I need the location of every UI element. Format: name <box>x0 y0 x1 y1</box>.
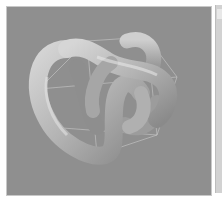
3d-viewport[interactable] <box>6 6 212 196</box>
torus-knot-render <box>7 7 212 196</box>
side-panel <box>215 5 222 193</box>
panel-strip <box>217 9 222 19</box>
